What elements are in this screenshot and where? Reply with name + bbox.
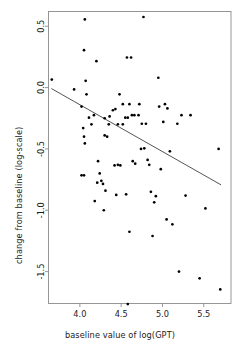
data-point bbox=[131, 114, 134, 117]
data-point bbox=[108, 115, 111, 118]
data-point bbox=[169, 150, 172, 153]
x-tick-label: 4.0 bbox=[73, 309, 86, 319]
data-point bbox=[128, 103, 131, 106]
data-point bbox=[219, 288, 222, 291]
data-point bbox=[153, 201, 156, 204]
data-point bbox=[134, 162, 137, 165]
data-point bbox=[140, 148, 143, 151]
data-point bbox=[146, 159, 149, 162]
data-point bbox=[189, 114, 192, 117]
data-point bbox=[133, 114, 136, 117]
data-point bbox=[121, 123, 124, 126]
data-point bbox=[83, 174, 86, 177]
data-point bbox=[95, 60, 98, 63]
data-point bbox=[102, 209, 105, 212]
x-tick-label: 4.5 bbox=[115, 309, 128, 319]
data-point bbox=[176, 122, 179, 125]
data-point bbox=[118, 93, 121, 96]
data-point bbox=[137, 114, 140, 117]
data-point bbox=[140, 122, 143, 125]
data-point bbox=[138, 103, 141, 106]
data-point bbox=[98, 172, 101, 175]
data-point bbox=[100, 179, 103, 182]
data-point bbox=[150, 191, 153, 194]
data-point bbox=[131, 160, 134, 163]
data-point bbox=[106, 135, 109, 138]
data-point bbox=[155, 195, 158, 198]
y-axis-title: change from baseline (log-scale) bbox=[14, 127, 24, 264]
data-point bbox=[180, 114, 183, 117]
data-point bbox=[113, 164, 116, 167]
data-point bbox=[93, 114, 96, 117]
x-tick-label: 5.5 bbox=[197, 309, 210, 319]
y-tick-label: -1.0 bbox=[37, 202, 47, 218]
data-point bbox=[128, 230, 131, 233]
data-point bbox=[151, 235, 154, 238]
data-point bbox=[80, 174, 83, 177]
data-point bbox=[104, 189, 107, 192]
y-tick-label: -1.5 bbox=[37, 264, 47, 280]
data-point bbox=[217, 148, 220, 151]
data-point bbox=[125, 193, 128, 196]
data-point bbox=[117, 164, 120, 167]
data-point bbox=[204, 207, 207, 210]
data-point bbox=[148, 164, 151, 167]
data-point bbox=[143, 147, 146, 150]
data-point bbox=[119, 164, 122, 167]
data-point bbox=[157, 76, 160, 79]
data-point bbox=[85, 93, 88, 96]
data-point bbox=[165, 218, 168, 221]
data-point bbox=[124, 116, 127, 119]
data-point bbox=[198, 277, 201, 280]
y-tick-label: 0.5 bbox=[37, 20, 47, 33]
data-point bbox=[83, 18, 86, 21]
y-tick-label: 0.0 bbox=[37, 81, 47, 94]
data-point bbox=[142, 16, 145, 19]
data-point bbox=[103, 134, 106, 137]
data-point bbox=[126, 56, 129, 59]
data-point bbox=[158, 105, 161, 108]
data-point bbox=[126, 303, 129, 306]
y-tick-label: -0.5 bbox=[37, 141, 47, 157]
data-point bbox=[145, 122, 148, 125]
figure-background bbox=[0, 0, 240, 353]
data-point bbox=[166, 107, 169, 110]
data-point bbox=[83, 142, 86, 145]
data-point bbox=[164, 103, 167, 106]
data-point bbox=[162, 121, 165, 124]
data-point bbox=[115, 194, 118, 197]
data-point bbox=[80, 105, 83, 108]
data-point bbox=[96, 181, 99, 184]
data-point bbox=[112, 109, 115, 112]
data-point bbox=[107, 123, 110, 126]
data-point bbox=[159, 168, 162, 171]
data-point bbox=[73, 88, 76, 91]
scatter-plot-figure: 4.04.55.05.5 0.50.0-0.5-1.0-1.5 baseline… bbox=[0, 0, 240, 353]
data-point bbox=[90, 123, 93, 126]
x-axis-title: baseline value of log(GPT) bbox=[0, 330, 240, 340]
data-point bbox=[126, 116, 129, 119]
data-point bbox=[82, 127, 85, 130]
data-point bbox=[130, 56, 133, 59]
data-point bbox=[97, 160, 100, 163]
data-point bbox=[171, 223, 174, 226]
data-point bbox=[93, 200, 96, 203]
data-point bbox=[117, 123, 120, 126]
plot-canvas: 4.04.55.05.5 0.50.0-0.5-1.0-1.5 bbox=[0, 0, 240, 353]
x-tick-label: 5.0 bbox=[156, 309, 169, 319]
data-point bbox=[83, 135, 86, 138]
data-point bbox=[84, 79, 87, 82]
data-point bbox=[114, 108, 117, 111]
data-point bbox=[121, 103, 124, 106]
data-point bbox=[83, 49, 86, 52]
data-point bbox=[184, 194, 187, 197]
data-point bbox=[50, 78, 53, 81]
data-point bbox=[178, 270, 181, 273]
data-point bbox=[88, 116, 91, 119]
data-point bbox=[102, 183, 105, 186]
data-point bbox=[103, 117, 106, 120]
